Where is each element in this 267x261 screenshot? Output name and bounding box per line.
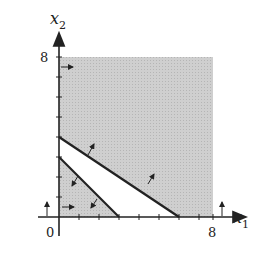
y-max-label: 8 [40, 50, 48, 65]
y-axis-label: x2 [50, 9, 66, 32]
x-max-label: 8 [208, 225, 216, 240]
x-axis-label: x1 [233, 208, 249, 231]
lp-diagram: x2 x1 8 8 0 [0, 0, 267, 261]
origin-label: 0 [46, 225, 54, 240]
